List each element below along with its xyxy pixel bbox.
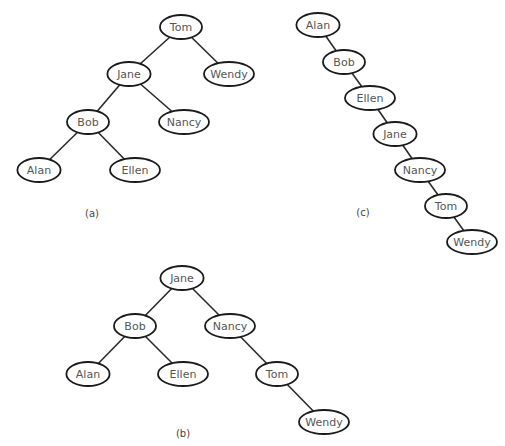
node-nancy: Nancy [159, 110, 209, 134]
tree-diagram-canvas: TomJaneWendyBobNancyAlanEllen(a)JaneBobN… [0, 0, 505, 446]
node-jane: Jane [373, 122, 416, 146]
node-wendy: Wendy [299, 410, 349, 434]
node-label: Jane [116, 68, 141, 81]
node-label: Tom [434, 200, 457, 213]
node-label: Wendy [210, 68, 248, 81]
node-tom: Tom [425, 194, 467, 218]
node-tom: Tom [256, 362, 298, 386]
node-label: Nancy [213, 320, 248, 333]
node-label: Bob [124, 320, 145, 333]
node-bob: Bob [114, 314, 156, 338]
node-alan: Alan [296, 13, 339, 37]
node-label: Jane [169, 272, 194, 285]
node-wendy: Wendy [204, 62, 254, 86]
node-ellen: Ellen [158, 362, 208, 386]
node-label: Tom [265, 368, 288, 381]
node-bob: Bob [67, 110, 109, 134]
node-jane: Jane [107, 62, 150, 86]
node-label: Tom [169, 21, 192, 34]
node-nancy: Nancy [205, 314, 255, 338]
node-tom: Tom [160, 15, 202, 39]
caption-c: (c) [356, 207, 369, 218]
node-jane: Jane [160, 266, 203, 290]
node-label: Nancy [167, 116, 202, 129]
caption-a: (a) [85, 208, 99, 219]
node-label: Ellen [170, 368, 197, 381]
node-label: Alan [306, 19, 330, 32]
node-label: Ellen [357, 92, 384, 105]
node-label: Alan [76, 368, 100, 381]
node-label: Bob [333, 56, 354, 69]
caption-b: (b) [176, 428, 190, 439]
node-nancy: Nancy [395, 158, 445, 182]
node-ellen: Ellen [345, 86, 395, 110]
node-label: Nancy [403, 164, 438, 177]
node-label: Alan [27, 164, 51, 177]
tree-a: TomJaneWendyBobNancyAlanEllen(a) [17, 15, 254, 219]
node-alan: Alan [66, 362, 109, 386]
tree-c: AlanBobEllenJaneNancyTomWendy(c) [296, 13, 497, 254]
node-label: Jane [382, 128, 407, 141]
node-wendy: Wendy [447, 230, 497, 254]
tree-b: JaneBobNancyAlanEllenTomWendy(b) [66, 266, 349, 439]
node-label: Wendy [453, 236, 491, 249]
node-label: Bob [77, 116, 98, 129]
node-ellen: Ellen [110, 158, 160, 182]
node-label: Ellen [122, 164, 149, 177]
node-label: Wendy [305, 416, 343, 429]
node-bob: Bob [323, 50, 365, 74]
node-alan: Alan [17, 158, 60, 182]
